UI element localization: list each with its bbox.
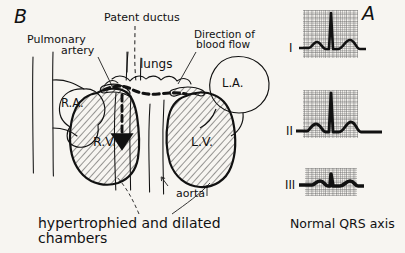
label-aorta: aorta — [176, 187, 205, 200]
label-left-atrium: L.A. — [222, 76, 243, 90]
figure-patent-ductus-arteriosus: B A — [0, 0, 405, 253]
panel-b-label: B — [14, 5, 27, 27]
label-patent-ductus: Patent ductus — [104, 11, 180, 24]
panel-a-label: A — [360, 2, 375, 24]
label-direction-blood-flow-line2: blood flow — [196, 38, 250, 50]
label-right-ventricle: R.V. — [93, 134, 116, 149]
caption-line-2: chambers — [38, 230, 107, 246]
label-left-ventricle: L.V. — [191, 134, 213, 149]
label-lungs: lungs — [140, 57, 172, 71]
ecg-lead-label-III: III — [285, 178, 295, 192]
label-pulmonary-artery-line2: artery — [61, 44, 95, 57]
ecg-lead-label-II: II — [286, 124, 293, 138]
caption-line-1: hypertrophied and dilated — [38, 215, 221, 231]
ecg-lead-label-I: I — [289, 41, 292, 55]
label-right-atrium: R.A. — [61, 96, 84, 110]
ecg-caption: Normal QRS axis — [290, 216, 395, 231]
